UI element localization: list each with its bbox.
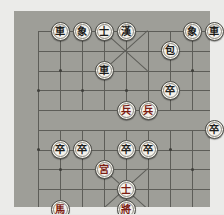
piece-glyph: 宮	[99, 164, 109, 174]
piece-glyph: 車	[209, 26, 219, 36]
board-file-line-4-top	[126, 31, 127, 110]
piece-black-soldier-p16[interactable]: 卒	[139, 140, 158, 159]
board-file-line-2-top	[82, 31, 83, 110]
piece-black-chariot-p6[interactable]: 車	[205, 22, 224, 41]
board-file-line-5-top	[148, 31, 149, 110]
page-margin-bottom	[0, 207, 224, 214]
piece-red-palace-piece-p17[interactable]: 宮	[95, 160, 114, 179]
board-slab: 車象士漢象車包車卒兵兵卒卒卒卒卒宮士馬將	[14, 11, 210, 207]
board-point-mark-0	[59, 69, 62, 72]
piece-black-elephant-p5[interactable]: 象	[183, 22, 202, 41]
piece-red-soldier-p11[interactable]: 兵	[139, 101, 158, 120]
piece-black-soldier-p12[interactable]: 卒	[205, 120, 224, 139]
board-point-mark-3	[191, 168, 194, 171]
piece-black-chariot-p8[interactable]: 車	[95, 61, 114, 80]
board-point-mark-4	[37, 89, 40, 92]
piece-glyph: 馬	[55, 204, 65, 214]
piece-black-cannon-p7[interactable]: 包	[161, 41, 180, 60]
piece-glyph: 將	[121, 204, 131, 214]
piece-glyph: 卒	[55, 145, 65, 155]
piece-glyph: 士	[99, 26, 109, 36]
piece-glyph: 卒	[209, 125, 219, 135]
piece-red-horse-p19[interactable]: 馬	[51, 200, 70, 215]
piece-black-elephant-p2[interactable]: 象	[73, 22, 92, 41]
piece-glyph: 兵	[143, 105, 153, 115]
piece-glyph: 卒	[121, 145, 131, 155]
piece-black-general-p4[interactable]: 漢	[117, 22, 136, 41]
board-point-mark-9	[37, 148, 40, 151]
board-file-line-6-bottom	[170, 130, 171, 209]
piece-black-soldier-p13[interactable]: 卒	[51, 140, 70, 159]
piece-glyph: 卒	[165, 85, 175, 95]
piece-glyph: 象	[77, 26, 87, 36]
piece-glyph: 卒	[143, 145, 153, 155]
piece-black-soldier-p15[interactable]: 卒	[117, 140, 136, 159]
board-point-mark-2	[59, 168, 62, 171]
piece-glyph: 車	[99, 65, 109, 75]
board-point-mark-6	[125, 89, 128, 92]
page-margin-top	[0, 0, 224, 11]
piece-glyph: 卒	[77, 145, 87, 155]
piece-glyph: 象	[187, 26, 197, 36]
piece-black-soldier-p9[interactable]: 卒	[161, 81, 180, 100]
board-point-mark-12	[169, 148, 172, 151]
page-margin-left	[0, 0, 14, 214]
piece-black-soldier-p14[interactable]: 卒	[73, 140, 92, 159]
piece-glyph: 兵	[121, 105, 131, 115]
piece-glyph: 漢	[121, 26, 131, 36]
piece-glyph: 士	[121, 184, 131, 194]
board-point-mark-1	[191, 69, 194, 72]
board-file-line-0	[38, 31, 39, 209]
piece-red-advisor-p18[interactable]: 士	[117, 180, 136, 199]
xiangqi-app: 車象士漢象車包車卒兵兵卒卒卒卒卒宮士馬將	[0, 0, 224, 214]
board-field[interactable]: 車象士漢象車包車卒兵兵卒卒卒卒卒宮士馬將	[38, 31, 214, 209]
piece-black-advisor-p3[interactable]: 士	[95, 22, 114, 41]
piece-red-general-p20[interactable]: 將	[117, 200, 136, 215]
piece-black-chariot-p1[interactable]: 車	[51, 22, 70, 41]
piece-glyph: 車	[55, 26, 65, 36]
piece-red-soldier-p10[interactable]: 兵	[117, 101, 136, 120]
piece-glyph: 包	[165, 46, 175, 56]
board-point-mark-5	[81, 89, 84, 92]
